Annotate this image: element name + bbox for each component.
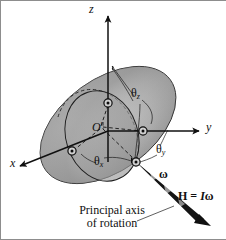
x-axis-label: x — [10, 157, 15, 169]
frame-top-rule — [0, 0, 226, 1]
caption-line-1: Principal axis — [60, 204, 164, 217]
angular-momentum-label: H = Iω — [178, 190, 214, 202]
z-axis-label: z — [89, 3, 94, 15]
frame-left-rule — [0, 0, 1, 240]
physics-diagram-figure: z y x O′ θz θy θx ω H = Iω Principal axi… — [0, 0, 226, 240]
omega-vector-label: ω — [159, 168, 168, 180]
particle-marker-y-axis — [139, 127, 147, 135]
origin-prime: ′ — [101, 120, 103, 130]
theta-y-label: θy — [156, 143, 165, 157]
angular-momentum-h: H — [178, 189, 187, 203]
theta-y-subscript: y — [162, 148, 166, 157]
angular-momentum-omega: ω — [205, 189, 214, 203]
origin-label: O′ — [92, 121, 103, 133]
caption-line-2: of rotation — [60, 217, 164, 230]
theta-x-subscript: x — [100, 160, 104, 169]
principal-axis-caption: Principal axis of rotation — [60, 204, 164, 231]
theta-z-subscript: z — [137, 92, 140, 101]
particle-marker-z-axis — [104, 99, 112, 107]
angular-momentum-equals: = — [187, 189, 200, 203]
origin-letter: O — [92, 120, 101, 134]
particle-marker-x-axis — [68, 147, 76, 155]
particle-marker-spin-axis — [132, 158, 140, 166]
theta-z-label: θz — [131, 87, 140, 101]
y-axis-label: y — [206, 121, 211, 133]
theta-x-label: θx — [94, 155, 103, 169]
